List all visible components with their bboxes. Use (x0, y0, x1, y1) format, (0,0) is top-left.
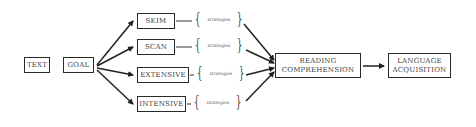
text-node-label: TEXT (27, 61, 47, 69)
arrow-goal-skim (97, 21, 133, 65)
reading-comprehension-line2: COMPREHENSION (282, 66, 355, 74)
skim-strategies: {strategies} (193, 12, 245, 27)
extensive-label: EXTENSIVE (140, 71, 186, 79)
intensive-strategies: {strategies} (192, 95, 244, 110)
text-node: TEXT (24, 57, 50, 73)
extensive-strategies: {strategies} (195, 66, 247, 81)
reading-comprehension-node: READING COMPREHENSION (275, 53, 361, 78)
language-acquisition-node: LANGUAGE ACQUISITION (388, 53, 451, 78)
goal-node-label: GOAL (68, 61, 90, 69)
scan-strategies: {strategies} (193, 38, 245, 53)
intensive-node: INTENSIVE (137, 96, 186, 112)
intensive-label: INTENSIVE (139, 100, 183, 108)
arrow-goal-extensive (97, 68, 133, 75)
connector-dot: · (55, 61, 57, 68)
language-acquisition-line1: LANGUAGE (397, 57, 441, 65)
skim-node: SKIM (137, 13, 175, 29)
extensive-node: EXTENSIVE (137, 67, 189, 83)
scan-node: SCAN (137, 39, 175, 55)
reading-comprehension-line1: READING (300, 57, 337, 65)
arrow-goal-scan (97, 47, 133, 66)
arrow-goal-intensive (97, 70, 133, 104)
scan-label: SCAN (145, 43, 167, 51)
goal-node: GOAL (63, 57, 94, 73)
language-acquisition-line2: ACQUISITION (393, 66, 447, 74)
skim-label: SKIM (146, 17, 167, 25)
